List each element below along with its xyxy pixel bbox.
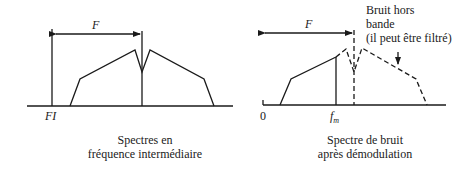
annotation-line1: Bruit hors	[366, 4, 414, 17]
left-caption-line1: Spectres en	[60, 133, 230, 147]
fm-label: fm	[330, 110, 339, 127]
right-caption-line2: après démodulation	[280, 147, 450, 161]
left-caption-line2: fréquence intermédiaire	[60, 147, 230, 161]
right-spectrum-dashed	[336, 48, 427, 105]
left-caption: Spectres en fréquence intermédiaire	[60, 133, 230, 161]
left-bandwidth-label: F	[92, 19, 99, 32]
right-caption: Spectre de bruit après démodulation	[280, 133, 450, 161]
annotation-line2: bande	[366, 18, 395, 31]
annotation-line3: (il peut être filtré)	[366, 32, 452, 45]
right-caption-line1: Spectre de bruit	[280, 133, 450, 147]
left-origin-label: FI	[45, 110, 56, 123]
right-spectrum-solid	[280, 57, 336, 105]
right-bandwidth-label: F	[305, 18, 312, 31]
right-origin-label: 0	[260, 110, 266, 123]
